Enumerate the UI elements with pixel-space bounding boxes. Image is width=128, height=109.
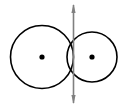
right-circle-center-dot: [89, 54, 94, 59]
left-circle-center-dot: [39, 54, 44, 59]
geometry-canvas: [0, 0, 128, 109]
geometry-figure: [0, 0, 128, 109]
figure-background: [0, 0, 128, 109]
